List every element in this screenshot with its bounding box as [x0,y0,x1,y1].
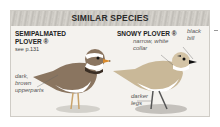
label-line: brown [15,80,44,87]
label-line: collar [133,45,168,52]
label-dark-brown-upperparts: dark, brown upperparts [15,73,44,94]
snowy-plover-illustration [111,43,209,115]
label-black-bill: black bill [187,28,201,42]
page-edge-mark [214,30,218,31]
similar-species-panel: SIMILAR SPECIES SEMIPALMATED PLOVER ® se… [10,10,210,117]
label-line: narrow, white [133,38,168,45]
species-name-snowy: SNOWY PLOVER ® [117,30,177,38]
label-darker-legs: darker legs [131,93,148,107]
label-narrow-white-collar: narrow, white collar [133,38,168,52]
label-line: darker [131,93,148,100]
label-line: legs [131,100,148,107]
label-line: bill [187,35,201,42]
panel-title: SIMILAR SPECIES [11,11,209,26]
label-line: upperparts [15,87,44,94]
label-line: black [187,28,201,35]
label-line: dark, [15,73,44,80]
